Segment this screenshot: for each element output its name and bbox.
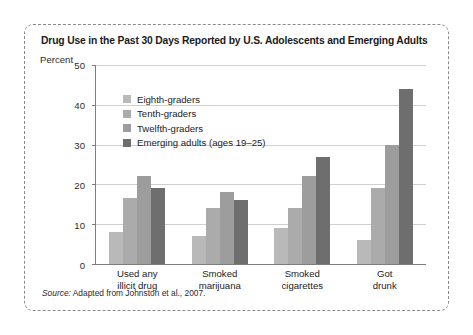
x-axis-category-label-line: cigarettes — [261, 280, 344, 292]
legend-item: Twelfth-graders — [123, 121, 266, 136]
y-axis-tick-label: 50 — [74, 60, 85, 71]
legend-item-label: Twelfth-graders — [137, 123, 203, 134]
source-text: Adapted from Johnston et al., 2007. — [71, 288, 206, 298]
x-axis-category-label: Smokedcigarettes — [261, 268, 344, 291]
y-axis-title: Percent — [40, 54, 73, 65]
legend-item: Eighth-graders — [123, 92, 266, 107]
bar — [234, 200, 248, 264]
y-axis-tick-label: 10 — [74, 219, 85, 230]
x-axis-category-label-line: drunk — [344, 280, 427, 292]
legend-item: Emerging adults (ages 19–25) — [123, 136, 266, 151]
legend-swatch-icon — [123, 110, 131, 118]
y-axis-tick: 0 — [92, 264, 96, 265]
x-axis-category-label: Gotdrunk — [344, 268, 427, 291]
bar — [192, 236, 206, 264]
bar-group — [344, 65, 427, 264]
bar — [316, 157, 330, 264]
bar-group — [261, 65, 344, 264]
bar — [302, 176, 316, 264]
legend-item-label: Emerging adults (ages 19–25) — [137, 137, 266, 148]
x-axis-category-label-line: Smoked — [261, 268, 344, 280]
bar — [151, 188, 165, 264]
x-axis-category-label-line: Smoked — [179, 268, 262, 280]
legend-swatch-icon — [123, 95, 131, 103]
legend-item-label: Tenth-graders — [137, 108, 196, 119]
x-axis-line — [95, 264, 426, 265]
legend-item: Tenth-graders — [123, 107, 266, 122]
chart-legend: Eighth-gradersTenth-gradersTwelfth-grade… — [123, 92, 266, 150]
bar — [357, 240, 371, 264]
figure-frame: Drug Use in the Past 30 Days Reported by… — [24, 24, 449, 311]
page-title: Drug Use in the Past 30 Days Reported by… — [41, 35, 439, 47]
x-axis-category-label-line: Used any — [96, 268, 179, 280]
bar — [288, 208, 302, 264]
bar — [220, 192, 234, 264]
bar — [206, 208, 220, 264]
source-note: Source: Adapted from Johnston et al., 20… — [42, 288, 205, 298]
bar — [137, 176, 151, 264]
bar — [385, 145, 399, 264]
y-axis-tick-label: 30 — [74, 139, 85, 150]
source-label: Source: — [42, 288, 71, 298]
y-axis-tick-label: 0 — [80, 260, 85, 271]
bar — [109, 232, 123, 264]
y-axis-tick-label: 40 — [74, 99, 85, 110]
bar — [399, 89, 413, 264]
bar — [274, 228, 288, 264]
legend-swatch-icon — [123, 124, 131, 132]
x-axis-category-label-line: Got — [344, 268, 427, 280]
legend-swatch-icon — [123, 139, 131, 147]
bar — [371, 188, 385, 264]
bar — [123, 198, 137, 264]
y-axis-tick-label: 20 — [74, 179, 85, 190]
legend-item-label: Eighth-graders — [137, 94, 200, 105]
